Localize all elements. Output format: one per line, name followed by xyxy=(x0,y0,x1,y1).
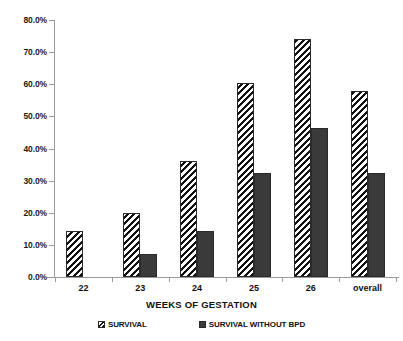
bar-chart: 0.0%10.0%20.0%30.0%40.0%50.0%60.0%70.0%8… xyxy=(0,0,403,341)
y-tick-mark xyxy=(49,149,54,150)
y-tick-label: 50.0% xyxy=(1,111,47,121)
x-tick-mark xyxy=(55,278,56,282)
x-tick-mark xyxy=(396,278,397,282)
y-tick-mark xyxy=(49,52,54,53)
x-tick-label-overall: overall xyxy=(353,283,382,293)
x-tick-label-26: 26 xyxy=(306,283,316,293)
bar-25-survival xyxy=(237,83,254,277)
bar-24-survival-without-bpd xyxy=(197,231,214,277)
y-tick-mark xyxy=(49,245,54,246)
plot-area xyxy=(55,20,396,277)
legend-item-survival-without-bpd[interactable]: SURVIVAL WITHOUT BPD xyxy=(199,320,305,329)
bar-26-survival-without-bpd xyxy=(311,128,328,277)
y-tick-mark xyxy=(49,116,54,117)
y-tick-label: 0.0% xyxy=(1,272,47,282)
x-tick-mark xyxy=(169,278,170,282)
bar-overall-survival xyxy=(351,91,368,277)
x-tick-mark xyxy=(226,278,227,282)
y-tick-label: 60.0% xyxy=(1,79,47,89)
y-tick-label: 70.0% xyxy=(1,47,47,57)
legend-item-survival[interactable]: SURVIVAL xyxy=(98,320,147,329)
y-tick-label: 80.0% xyxy=(1,15,47,25)
x-tick-mark xyxy=(282,278,283,282)
x-tick-mark xyxy=(339,278,340,282)
x-axis-line xyxy=(47,277,399,278)
y-tick-mark xyxy=(49,84,54,85)
y-tick-label: 30.0% xyxy=(1,176,47,186)
x-tick-mark xyxy=(112,278,113,282)
y-tick-label: 40.0% xyxy=(1,144,47,154)
chart-legend: SURVIVAL SURVIVAL WITHOUT BPD xyxy=(0,320,403,329)
y-tick-mark xyxy=(49,277,54,278)
bar-22-survival xyxy=(66,231,83,277)
x-tick-label-23: 23 xyxy=(135,283,145,293)
y-tick-mark xyxy=(49,181,54,182)
hatch-swatch-icon xyxy=(98,321,105,328)
y-tick-mark xyxy=(49,20,54,21)
bar-23-survival xyxy=(123,213,140,277)
y-tick-mark xyxy=(49,213,54,214)
legend-label-survival: SURVIVAL xyxy=(108,320,147,329)
bar-overall-survival-without-bpd xyxy=(368,173,385,277)
solid-swatch-icon xyxy=(199,321,206,328)
x-tick-label-24: 24 xyxy=(192,283,202,293)
bar-26-survival xyxy=(294,39,311,277)
x-tick-label-25: 25 xyxy=(249,283,259,293)
bar-23-survival-without-bpd xyxy=(140,254,157,277)
legend-label-survival-without-bpd: SURVIVAL WITHOUT BPD xyxy=(209,320,305,329)
bar-24-survival xyxy=(180,161,197,277)
y-tick-label: 10.0% xyxy=(1,240,47,250)
bar-25-survival-without-bpd xyxy=(254,173,271,277)
y-tick-label: 20.0% xyxy=(1,208,47,218)
x-tick-label-22: 22 xyxy=(78,283,88,293)
x-axis-title: WEEKS OF GESTATION xyxy=(0,299,403,310)
